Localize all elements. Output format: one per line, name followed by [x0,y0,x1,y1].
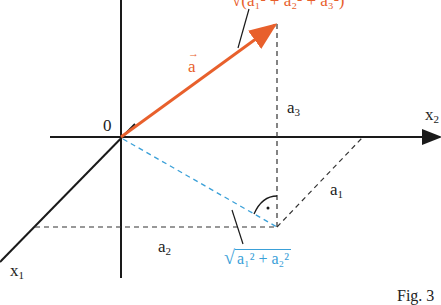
right-angle-arc [254,196,277,214]
vector-a [121,25,275,137]
a3-label: a3 [287,99,300,118]
figure-caption: Fig. 3 [397,288,434,304]
vector-length-label: √(a₁² + a₂² + a₃²) [232,0,345,11]
length-leader-line [238,9,249,48]
projection-length-label: √a₁² + a₂² [224,246,291,269]
a1-dashed-line [277,138,362,227]
x2-label: x2 [425,106,439,125]
vector-a-label: → a [188,58,196,75]
x1-label: x1 [10,262,24,281]
origin-label: 0 [103,117,112,134]
right-angle-dot [267,207,270,210]
a1-label: a1 [330,181,343,200]
a2-label: a2 [158,238,171,257]
vector-diagram [0,0,441,305]
x1-axis [0,124,135,262]
